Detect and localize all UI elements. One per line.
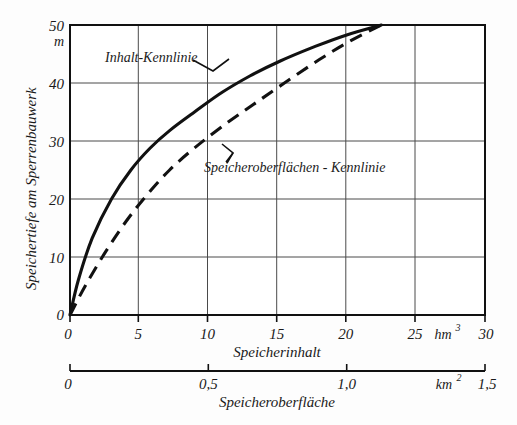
secondary-x-axis-ticks (70, 364, 485, 371)
y-tick-label-30: 30 (48, 134, 65, 150)
secondary-x-tick-label-1-0: 1,0 (337, 376, 356, 392)
secondary-x-tick-label-0-5: 0,5 (199, 376, 218, 392)
x-tick-label-30: 30 (478, 326, 495, 342)
x-tick-label-20: 20 (338, 326, 354, 342)
x-tick-label-0: 0 (64, 326, 72, 342)
secondary-x-axis-unit-label: km (436, 377, 452, 392)
y-tick-label-0: 0 (57, 307, 65, 323)
secondary-x-axis-title: Speicheroberfläche (219, 394, 335, 410)
x-axis-ticks (70, 315, 485, 322)
x-axis-unit-label: hm (434, 327, 451, 342)
x-tick-label-15: 15 (269, 326, 285, 342)
x-tick-label-25: 25 (408, 326, 424, 342)
chart-canvas: Inhalt-Kennlinie Speicheroberflächen - K… (0, 0, 517, 425)
series-label-inhalt-kennlinie: Inhalt-Kennlinie (104, 50, 198, 65)
y-tick-label-40: 40 (49, 76, 65, 92)
y-tick-label-20: 20 (49, 192, 65, 208)
secondary-x-axis-tick-labels: 0 0,5 1,0 1,5 (64, 376, 497, 392)
chart-figure: Inhalt-Kennlinie Speicheroberflächen - K… (0, 0, 517, 425)
y-axis-title: Speichertiefe am Sperrenbauwerk (23, 87, 39, 290)
y-axis-unit-label: m (54, 34, 64, 49)
secondary-x-axis-unit-exponent: 2 (457, 372, 462, 383)
x-axis-title: Speicherinhalt (233, 344, 321, 360)
y-axis-tick-labels: 50 40 30 20 10 0 (48, 18, 65, 323)
secondary-x-tick-label-0: 0 (64, 376, 72, 392)
secondary-x-tick-label-1-5: 1,5 (478, 376, 497, 392)
x-axis-tick-labels: 0 5 10 15 20 25 30 (64, 326, 494, 342)
x-tick-label-5: 5 (135, 326, 143, 342)
x-axis-unit-exponent: 3 (455, 322, 461, 333)
series-label-speicheroberflaechen-kennlinie: Speicheroberflächen - Kennlinie (204, 160, 385, 175)
y-tick-label-10: 10 (49, 250, 65, 266)
x-tick-label-10: 10 (200, 326, 216, 342)
y-tick-label-50: 50 (49, 18, 65, 34)
